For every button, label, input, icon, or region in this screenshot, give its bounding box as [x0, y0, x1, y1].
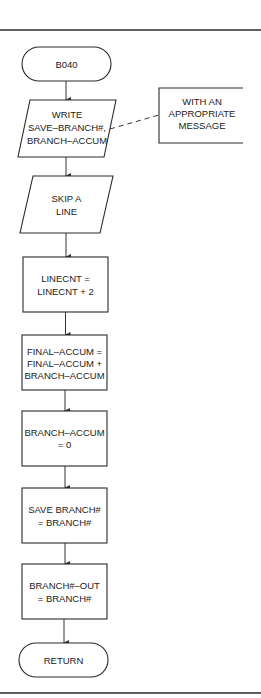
step-label: BRANCH#–OUT [29, 580, 100, 591]
step-label: FINAL–ACCUM = [27, 346, 103, 357]
io-skip-line-step: SKIP A LINE [20, 176, 113, 233]
step-label: FINAL–ACCUM + [27, 358, 103, 369]
process-final-accum-step: FINAL–ACCUM = FINAL–ACCUM + BRANCH–ACCUM [22, 335, 107, 390]
step-label: WRITE [52, 109, 83, 120]
process-save-branch-step: SAVE BRANCH# = BRANCH# [22, 488, 107, 543]
annotation-label: MESSAGE [179, 120, 226, 131]
step-label: = BRANCH# [38, 593, 92, 604]
step-label: SKIP A [52, 193, 83, 204]
end-terminal-label: RETURN [44, 655, 84, 666]
flowchart-canvas: B040 WRITE SAVE–BRANCH#, BRANCH–ACCUM WI… [0, 0, 261, 698]
step-label: LINECNT + 2 [37, 286, 94, 297]
end-terminal: RETURN [19, 643, 108, 677]
process-branch-out-step: BRANCH#–OUT = BRANCH# [22, 564, 107, 619]
annotation-connector [110, 115, 159, 129]
process-linecnt-step: LINECNT = LINECNT + 2 [23, 257, 108, 312]
start-terminal-label: B040 [55, 59, 77, 70]
step-label: = 0 [58, 439, 71, 450]
annotation-label: APPROPRIATE [169, 108, 236, 119]
io-write-step: WRITE SAVE–BRANCH#, BRANCH–ACCUM [18, 100, 116, 157]
step-label: BRANCH–ACCUM [24, 427, 104, 438]
process-reset-branch-accum-step: BRANCH–ACCUM = 0 [22, 411, 107, 466]
step-label: BRANCH–ACCUM [24, 370, 104, 381]
step-label: = BRANCH# [38, 517, 92, 528]
step-label: LINE [56, 206, 77, 217]
start-terminal: B040 [22, 47, 111, 81]
annotation-comment: WITH AN APPROPRIATE MESSAGE [159, 88, 243, 143]
step-label: LINECNT = [41, 273, 90, 284]
annotation-label: WITH AN [182, 96, 222, 107]
step-label: SAVE–BRANCH#, [28, 122, 106, 133]
step-label: BRANCH–ACCUM [27, 135, 107, 146]
step-label: SAVE BRANCH# [28, 504, 101, 515]
